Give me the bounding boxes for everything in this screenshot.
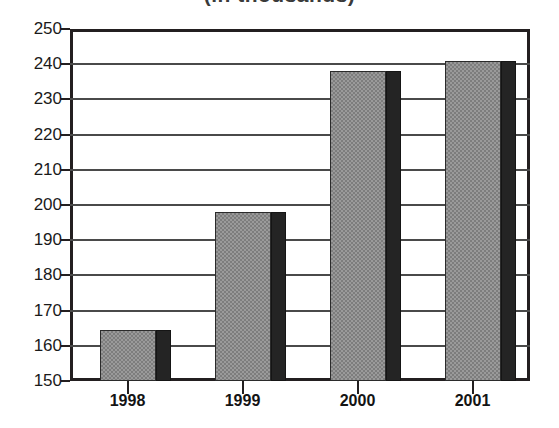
bar: [330, 71, 401, 381]
x-axis-label: 1999: [185, 392, 300, 410]
y-axis-label: 200: [2, 196, 62, 213]
bar-shadow-side: [501, 61, 516, 381]
bar: [445, 61, 516, 381]
y-axis-label: 210: [2, 161, 62, 178]
y-axis-tick: [61, 63, 70, 65]
bar-shadow-side: [271, 212, 286, 381]
x-axis-label: 1998: [70, 392, 185, 410]
y-axis-label: 170: [2, 302, 62, 319]
y-axis-tick: [61, 310, 70, 312]
bar-face: [100, 330, 156, 381]
y-axis-label: 250: [2, 20, 62, 37]
y-axis-tick: [61, 380, 70, 382]
y-axis-tick: [61, 28, 70, 30]
bar-shadow-side: [156, 330, 171, 381]
y-axis-label: 160: [2, 337, 62, 354]
bar-face: [445, 61, 501, 381]
y-axis-tick: [61, 98, 70, 100]
y-axis-tick: [61, 239, 70, 241]
bar-face: [330, 71, 386, 381]
y-axis-label: 240: [2, 55, 62, 72]
bar-shadow-side: [386, 71, 401, 381]
y-axis-label: 180: [2, 266, 62, 283]
x-axis-label: 2001: [415, 392, 530, 410]
bar-chart: 150160170180190200210220230240250 199819…: [0, 0, 559, 428]
y-axis-tick: [61, 134, 70, 136]
x-axis-label: 2000: [300, 392, 415, 410]
y-axis-label: 150: [2, 372, 62, 389]
y-axis-tick: [61, 169, 70, 171]
y-axis-label: 220: [2, 126, 62, 143]
y-axis-tick: [61, 345, 70, 347]
y-axis-label: 230: [2, 90, 62, 107]
bar: [100, 330, 171, 381]
y-axis-tick: [61, 274, 70, 276]
bar: [215, 212, 286, 381]
y-axis-label: 190: [2, 231, 62, 248]
bar-face: [215, 212, 271, 381]
y-axis-tick: [61, 204, 70, 206]
